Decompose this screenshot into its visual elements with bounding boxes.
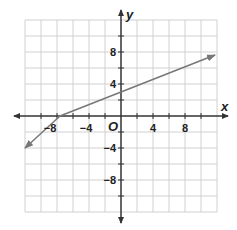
- y-tick-label: −4: [103, 142, 116, 154]
- x-tick-label: −4: [80, 122, 93, 134]
- x-tick-label: −8: [44, 122, 57, 134]
- y-tick-label: −8: [103, 174, 116, 186]
- x-tick-label: 8: [182, 122, 188, 134]
- x-tick-label: 4: [150, 122, 157, 134]
- origin-label: O: [108, 119, 118, 134]
- y-axis-label: y: [125, 7, 134, 22]
- x-axis-label: x: [220, 99, 229, 114]
- y-tick-label: 4: [110, 78, 117, 90]
- coordinate-plane: x y O −8 −4 4 8 8 4 −4 −8: [0, 0, 237, 230]
- y-tick-label: 8: [110, 46, 116, 58]
